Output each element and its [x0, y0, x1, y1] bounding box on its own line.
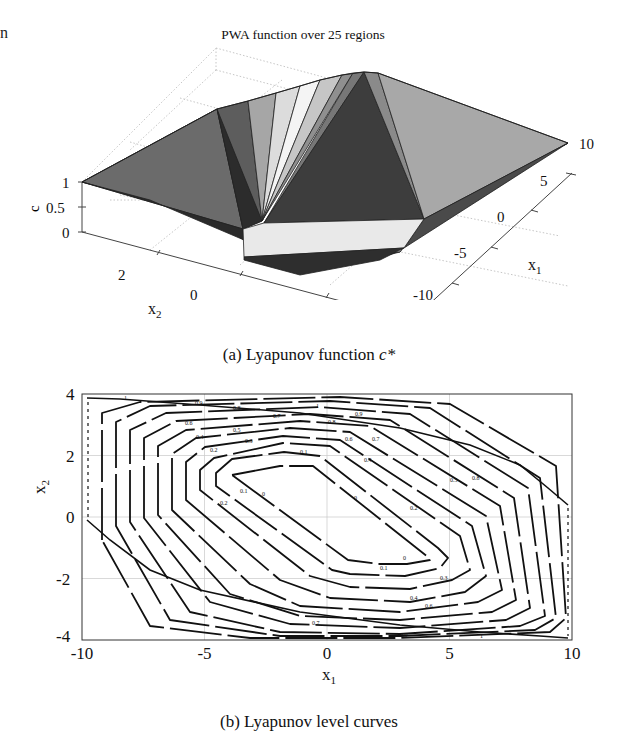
z-tick-0.5: 0.5	[46, 200, 65, 216]
svg-text:0.2: 0.2	[210, 447, 218, 453]
svg-text:0.5: 0.5	[233, 427, 241, 433]
x2-tick-labels: 2 0 -2	[118, 267, 269, 300]
caption-a: (a) Lyapunov function c*	[0, 345, 618, 365]
z-axis-label: c	[26, 205, 42, 212]
svg-text:0.1: 0.1	[380, 565, 388, 571]
svg-text:0.7: 0.7	[273, 413, 281, 419]
svg-text:0.9: 0.9	[355, 411, 363, 417]
z-tick-0: 0	[62, 225, 70, 241]
svg-text:0.4: 0.4	[196, 434, 204, 440]
svg-text:0.6: 0.6	[185, 420, 193, 426]
svg-text:0: 0	[190, 287, 198, 300]
x1-axis-label-3d: x1	[528, 256, 542, 276]
svg-text:2: 2	[118, 267, 126, 283]
svg-text:-5: -5	[197, 644, 211, 663]
svg-text:10: 10	[579, 136, 594, 152]
svg-text:0.2: 0.2	[220, 500, 228, 506]
svg-text:0.9: 0.9	[400, 632, 408, 638]
svg-text:0: 0	[354, 495, 357, 501]
svg-text:0.1: 0.1	[300, 449, 308, 455]
svg-text:10: 10	[564, 644, 581, 663]
svg-text:-10: -10	[71, 644, 94, 663]
svg-text:0.3: 0.3	[440, 575, 448, 581]
svg-text:0: 0	[497, 209, 505, 225]
svg-text:0: 0	[403, 555, 406, 561]
svg-text:1: 1	[480, 633, 483, 639]
svg-text:-2: -2	[56, 570, 70, 589]
svg-text:0.1: 0.1	[240, 488, 248, 494]
level-0	[232, 466, 430, 564]
svg-text:0: 0	[66, 508, 75, 527]
x2-axis-label-3d: x2	[148, 300, 162, 320]
svg-text:0.7: 0.7	[312, 620, 320, 626]
svg-text:4: 4	[66, 385, 75, 404]
contour-x-axis-label: x1	[322, 665, 336, 686]
surface-plot-3d: 1 0.5 0 c 2 0 -2 -10 -5 0 5 10	[0, 0, 618, 300]
z-tick-labels: 1 0.5 0	[46, 175, 70, 241]
level-0.9	[102, 397, 566, 638]
svg-text:5: 5	[445, 644, 454, 663]
svg-text:0.6: 0.6	[425, 603, 433, 609]
svg-text:5: 5	[540, 173, 548, 189]
svg-text:0.4: 0.4	[410, 595, 418, 601]
contour-y-axis-label: x2	[30, 480, 51, 494]
svg-text:0.3: 0.3	[245, 438, 253, 444]
level-0.2	[200, 443, 470, 589]
svg-text:0.5: 0.5	[450, 477, 458, 483]
svg-text:1: 1	[316, 403, 319, 409]
svg-text:0.9: 0.9	[195, 400, 203, 406]
svg-text:2: 2	[66, 447, 75, 466]
z-tick-1: 1	[62, 175, 70, 191]
svg-text:0.8: 0.8	[233, 405, 241, 411]
surface-faces	[82, 72, 568, 275]
svg-text:0.6: 0.6	[345, 436, 353, 442]
contour-plot: 000 0.10.10.1 0.20.20.2 0.30.3 0.40.40.4…	[0, 380, 618, 700]
svg-text:1: 1	[124, 395, 127, 401]
contour-x-tick-labels: -10 -5 0 5 10	[71, 644, 581, 663]
contour-y-tick-labels: 4 2 0 -2 -4	[56, 385, 75, 646]
svg-text:0: 0	[262, 491, 265, 497]
svg-text:0.4: 0.4	[364, 457, 372, 463]
svg-text:-4: -4	[56, 627, 71, 646]
caption-b: (b) Lyapunov level curves	[0, 712, 618, 732]
svg-text:0.8: 0.8	[472, 475, 480, 481]
svg-text:-10: -10	[413, 287, 433, 300]
svg-text:0.7: 0.7	[372, 436, 380, 442]
svg-text:0.8: 0.8	[328, 419, 336, 425]
level-curves	[102, 397, 566, 638]
svg-text:0.2: 0.2	[410, 505, 418, 511]
svg-text:0: 0	[323, 644, 332, 663]
svg-text:-5: -5	[454, 245, 467, 261]
